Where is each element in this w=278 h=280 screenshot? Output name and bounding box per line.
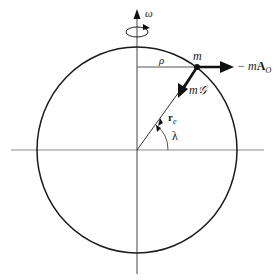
diagram-canvas: ω ρ m − mAO m𝒢 re λ bbox=[0, 0, 278, 280]
latitude-label: λ bbox=[172, 130, 178, 142]
rotation-axis-arrowhead bbox=[134, 9, 141, 19]
inertial-force-label: − mAO bbox=[237, 60, 271, 75]
latitude-arc-arrowhead bbox=[156, 125, 161, 132]
inertial-force-arrowhead bbox=[220, 61, 234, 73]
inertial-force-prefix: − m bbox=[237, 59, 257, 73]
omega-label: ω bbox=[145, 8, 153, 19]
gravity-force-label: m𝒢 bbox=[189, 84, 207, 96]
mass-point bbox=[194, 64, 200, 70]
radius-vector-subscript: e bbox=[173, 117, 177, 126]
rho-label: ρ bbox=[159, 55, 164, 66]
mass-label: m bbox=[193, 50, 202, 62]
radius-vector-label: re bbox=[168, 112, 176, 126]
inertial-force-subscript: O bbox=[265, 66, 271, 75]
diagram-svg bbox=[0, 0, 278, 280]
